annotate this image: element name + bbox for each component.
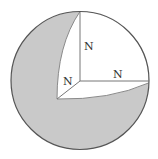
sphere-octant-diagram: N N N	[0, 0, 158, 159]
vertical-axis-label: N	[84, 40, 94, 53]
horizontal-axis-label: N	[113, 68, 123, 81]
diagonal-axis-label: N	[63, 75, 73, 88]
